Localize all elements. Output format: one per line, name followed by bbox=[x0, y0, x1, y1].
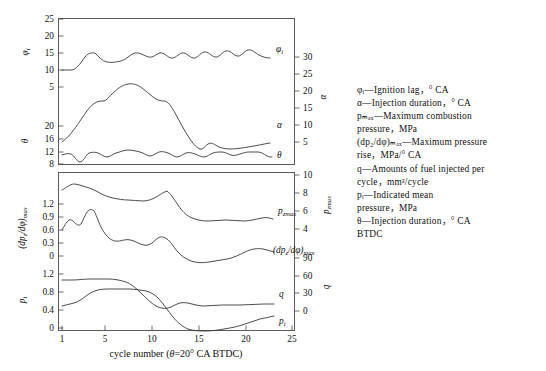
upper-right-tick-15: 15 bbox=[303, 103, 313, 113]
legend-line-9: pressure，MPa bbox=[357, 202, 545, 215]
lower-right-tick-10: 10 bbox=[303, 170, 313, 180]
lower-left-tick-1p2: 1.2 bbox=[42, 199, 54, 209]
x-tick-10: 10 bbox=[147, 334, 157, 344]
figure-root: 25 20 15 10 5 φi 20 16 12 8 bbox=[0, 0, 546, 371]
upper-left2-tick-12: 12 bbox=[45, 147, 55, 157]
lower-left2-tick-0p8: 0.8 bbox=[42, 287, 54, 297]
curve-label-dpz-dphi-max: (dpz/dφ)max bbox=[273, 245, 315, 256]
legend-line-1: α—Injection duration，° CA bbox=[357, 97, 545, 110]
chart-area: 25 20 15 10 5 φi 20 16 12 8 bbox=[0, 0, 350, 371]
upper-right-ticks: 30 25 20 15 10 5 bbox=[295, 52, 313, 147]
lower-right-tick-4: 4 bbox=[303, 224, 308, 234]
x-tick-1: 1 bbox=[60, 334, 65, 344]
svg-text:pzmax: pzmax bbox=[321, 196, 332, 215]
upper-left2-tick-20: 20 bbox=[45, 121, 55, 131]
curve-pzmax bbox=[62, 184, 273, 221]
upper-panel-frame bbox=[59, 19, 295, 165]
lower-left2-tick-0: 0 bbox=[49, 323, 54, 333]
upper-right-tick-5: 5 bbox=[303, 137, 308, 147]
lower-right-tick-6: 6 bbox=[303, 206, 308, 216]
lower-left2-tick-1p2: 1.2 bbox=[42, 269, 54, 279]
curve-label-pzmax: pzmax bbox=[277, 206, 296, 217]
legend-line-0: φᵢ—Ignition lag，° CA bbox=[357, 84, 545, 97]
x-axis-title: cycle number (θ=20° CA BTDC) bbox=[110, 348, 243, 360]
svg-text:θ: θ bbox=[20, 138, 30, 143]
lower-right2-tick-30: 30 bbox=[303, 288, 313, 298]
svg-text:φi: φi bbox=[20, 48, 31, 55]
upper-left-secondary-ticks: 20 16 12 8 bbox=[45, 121, 64, 169]
curve-alpha bbox=[62, 84, 270, 149]
lower-left-tick-0: 0 bbox=[49, 251, 54, 261]
x-tick-5: 5 bbox=[103, 334, 108, 344]
upper-left-tick-25: 25 bbox=[45, 14, 55, 24]
lower-left-primary-ticks: 1.2 0.9 0.6 0.3 0 bbox=[42, 199, 63, 261]
curve-dpz-dphi-max bbox=[62, 210, 274, 263]
lower-panel-frame bbox=[59, 173, 295, 331]
lower-right-secondary-ticks: 90 60 30 0 bbox=[295, 253, 313, 316]
lower-right-secondary-axis-title: q bbox=[321, 284, 331, 289]
legend-line-11: BTDC bbox=[357, 228, 545, 241]
legend-line-7: cycle，mm³/cycle bbox=[357, 176, 545, 189]
x-tick-15: 15 bbox=[194, 334, 204, 344]
lower-right-primary-ticks: 10 8 6 4 bbox=[295, 170, 313, 234]
lower-left-tick-0p3: 0.3 bbox=[42, 238, 54, 248]
upper-left-primary-axis-title: φi bbox=[20, 48, 31, 55]
upper-left-secondary-axis-title: θ bbox=[20, 138, 30, 143]
upper-right-tick-30: 30 bbox=[303, 52, 313, 62]
upper-left-tick-10: 10 bbox=[45, 65, 55, 75]
upper-right-axis-title: α bbox=[318, 93, 328, 99]
legend-line-10: θ—Injection duration，° CA bbox=[357, 215, 545, 228]
lower-left2-tick-0p4: 0.4 bbox=[42, 305, 54, 315]
upper-left-tick-5: 5 bbox=[49, 82, 54, 92]
x-axis-ticks: 1 5 10 15 20 25 bbox=[60, 326, 297, 345]
legend-line-8: pᵢ—Indicated mean bbox=[357, 189, 545, 202]
svg-text:α: α bbox=[318, 93, 328, 99]
legend-line-2: pₘₐₓ—Maximum combustion bbox=[357, 110, 545, 123]
x-tick-25: 25 bbox=[287, 334, 297, 344]
curve-q bbox=[62, 279, 274, 308]
curve-label-q: q bbox=[279, 289, 284, 299]
lower-right2-tick-0: 0 bbox=[303, 306, 308, 316]
curve-label-phi-i: φi bbox=[276, 44, 283, 55]
lower-left-secondary-axis-title: pi bbox=[17, 297, 28, 305]
lower-right2-tick-60: 60 bbox=[303, 271, 313, 281]
svg-text:pi: pi bbox=[17, 297, 28, 305]
lower-left-primary-axis-title: (dpz/dφ)max bbox=[17, 207, 28, 249]
curve-pi bbox=[62, 289, 274, 331]
lower-right-tick-8: 8 bbox=[303, 188, 308, 198]
upper-left-primary-ticks: 25 20 15 10 5 bbox=[45, 14, 64, 92]
upper-left2-tick-8: 8 bbox=[49, 159, 54, 169]
legend-line-3: pressure，MPa bbox=[357, 123, 545, 136]
curve-label-alpha: α bbox=[277, 120, 283, 130]
curve-label-pi: pi bbox=[278, 316, 286, 327]
curve-theta bbox=[62, 150, 272, 162]
upper-right-tick-25: 25 bbox=[303, 69, 313, 79]
svg-text:q: q bbox=[321, 284, 331, 289]
x-tick-20: 20 bbox=[241, 334, 251, 344]
legend-line-4: (dp₂/dφ)ₘₐₓ—Maximum pressure bbox=[357, 136, 545, 149]
legend-line-6: q—Amounts of fuel injected per bbox=[357, 163, 545, 176]
upper-left-tick-15: 15 bbox=[45, 48, 55, 58]
legend-line-5: rise，MPa/° CA bbox=[357, 149, 545, 162]
curve-label-theta: θ bbox=[277, 150, 282, 160]
engine-cycle-line-chart: 25 20 15 10 5 φi 20 16 12 8 bbox=[0, 0, 350, 371]
lower-left-secondary-ticks: 1.2 0.8 0.4 0 bbox=[42, 269, 63, 333]
upper-right-tick-10: 10 bbox=[303, 120, 313, 130]
upper-left-tick-20: 20 bbox=[45, 31, 55, 41]
curve-phi-i bbox=[62, 50, 270, 70]
upper-right-tick-20: 20 bbox=[303, 86, 313, 96]
legend-nomenclature: φᵢ—Ignition lag，° CA α—Injection duratio… bbox=[357, 84, 545, 241]
upper-left2-tick-16: 16 bbox=[45, 134, 55, 144]
lower-left-tick-0p6: 0.6 bbox=[42, 225, 54, 235]
lower-left-tick-0p9: 0.9 bbox=[42, 212, 54, 222]
lower-right-primary-axis-title: pzmax bbox=[321, 196, 332, 215]
svg-text:(dpz/dφ)max: (dpz/dφ)max bbox=[17, 207, 28, 249]
